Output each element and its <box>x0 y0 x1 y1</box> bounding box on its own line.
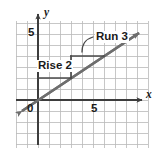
annotation-run-label: Run 3 <box>95 31 129 43</box>
axis-label-x: x <box>146 89 152 101</box>
tick-label-y-5: 5 <box>28 27 34 39</box>
annotation-rise-label: Rise 2 <box>37 60 73 72</box>
axis-label-y: y <box>44 7 49 19</box>
coordinate-graph-figure: y x 0 5 5 Rise 2 Run 3 <box>0 0 162 163</box>
graph-canvas <box>0 0 162 163</box>
run-leader-line <box>82 37 93 52</box>
tick-label-x-5: 5 <box>91 103 97 115</box>
tick-label-origin: 0 <box>27 103 33 115</box>
